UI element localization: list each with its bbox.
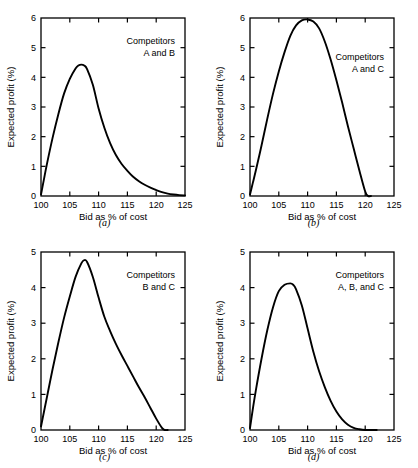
y-axis-title: Expected profit (%) bbox=[214, 67, 225, 148]
x-tick-label: 115 bbox=[329, 434, 343, 444]
y-tick-label: 1 bbox=[31, 390, 36, 400]
chart-c: 100105110115120125012345Bid as % of cost… bbox=[0, 234, 209, 468]
y-axis-title: Expected profit (%) bbox=[5, 301, 16, 382]
data-curve bbox=[250, 283, 377, 430]
y-tick-label: 5 bbox=[31, 43, 36, 53]
panel-caption-a: (a) bbox=[0, 217, 209, 228]
chart-b: 1001051101151201250123456Bid as % of cos… bbox=[209, 0, 418, 234]
y-tick-label: 1 bbox=[240, 390, 245, 400]
y-tick-label: 5 bbox=[31, 247, 36, 257]
legend-line-2: A, B, and C bbox=[338, 282, 385, 292]
y-tick-label: 2 bbox=[31, 354, 36, 364]
x-tick-label: 120 bbox=[149, 434, 164, 444]
x-tick-label: 105 bbox=[62, 434, 77, 444]
y-tick-label: 4 bbox=[31, 283, 36, 293]
x-tick-label: 115 bbox=[120, 200, 134, 210]
x-tick-label: 125 bbox=[177, 200, 192, 210]
legend-line-1: Competitors bbox=[335, 52, 384, 62]
data-curve bbox=[41, 65, 185, 196]
y-tick-label: 0 bbox=[240, 191, 245, 201]
y-tick-label: 2 bbox=[31, 132, 36, 142]
y-tick-label: 4 bbox=[240, 73, 245, 83]
panel-a: 1001051101151201250123456Bid as % of cos… bbox=[0, 0, 209, 234]
figure-grid: 1001051101151201250123456Bid as % of cos… bbox=[0, 0, 418, 468]
legend-line-2: A and C bbox=[352, 64, 385, 74]
x-tick-label: 120 bbox=[358, 200, 373, 210]
legend-line-2: A and B bbox=[143, 48, 175, 58]
legend-line-1: Competitors bbox=[335, 270, 384, 280]
y-tick-label: 3 bbox=[240, 318, 245, 328]
x-tick-label: 120 bbox=[358, 434, 373, 444]
y-tick-label: 5 bbox=[240, 247, 245, 257]
y-tick-label: 4 bbox=[31, 73, 36, 83]
panel-caption-b: (b) bbox=[209, 217, 418, 228]
y-tick-label: 2 bbox=[240, 132, 245, 142]
plot-frame bbox=[250, 18, 394, 196]
panel-c: 100105110115120125012345Bid as % of cost… bbox=[0, 234, 209, 468]
x-tick-label: 125 bbox=[386, 200, 401, 210]
y-tick-label: 1 bbox=[240, 162, 245, 172]
y-tick-label: 3 bbox=[240, 102, 245, 112]
y-axis-title: Expected profit (%) bbox=[214, 301, 225, 382]
x-tick-label: 125 bbox=[386, 434, 401, 444]
x-tick-label: 110 bbox=[91, 434, 105, 444]
x-tick-label: 115 bbox=[329, 200, 343, 210]
x-tick-label: 125 bbox=[177, 434, 192, 444]
data-curve bbox=[250, 19, 371, 196]
y-tick-label: 0 bbox=[31, 191, 36, 201]
y-axis-title: Expected profit (%) bbox=[5, 67, 16, 148]
x-tick-label: 110 bbox=[300, 200, 314, 210]
y-tick-label: 3 bbox=[31, 318, 36, 328]
legend-line-1: Competitors bbox=[126, 36, 175, 46]
y-tick-label: 4 bbox=[240, 283, 245, 293]
y-tick-label: 6 bbox=[240, 13, 245, 23]
x-tick-label: 105 bbox=[62, 200, 77, 210]
x-tick-label: 105 bbox=[271, 434, 286, 444]
y-tick-label: 0 bbox=[240, 425, 245, 435]
y-tick-label: 6 bbox=[31, 13, 36, 23]
y-tick-label: 1 bbox=[31, 162, 36, 172]
y-tick-label: 5 bbox=[240, 43, 245, 53]
legend-line-2: B and C bbox=[142, 282, 175, 292]
legend-line-1: Competitors bbox=[126, 270, 175, 280]
panel-caption-c: (c) bbox=[0, 451, 209, 462]
panel-b: 1001051101151201250123456Bid as % of cos… bbox=[209, 0, 418, 234]
x-tick-label: 110 bbox=[300, 434, 314, 444]
y-tick-label: 3 bbox=[31, 102, 36, 112]
panel-d: 100105110115120125012345Bid as % of cost… bbox=[209, 234, 418, 468]
y-tick-label: 0 bbox=[31, 425, 36, 435]
chart-a: 1001051101151201250123456Bid as % of cos… bbox=[0, 0, 209, 234]
x-tick-label: 120 bbox=[149, 200, 164, 210]
chart-d: 100105110115120125012345Bid as % of cost… bbox=[209, 234, 418, 468]
panel-caption-d: (d) bbox=[209, 451, 418, 462]
x-tick-label: 110 bbox=[91, 200, 105, 210]
x-tick-label: 115 bbox=[120, 434, 134, 444]
x-tick-label: 105 bbox=[271, 200, 286, 210]
y-tick-label: 2 bbox=[240, 354, 245, 364]
